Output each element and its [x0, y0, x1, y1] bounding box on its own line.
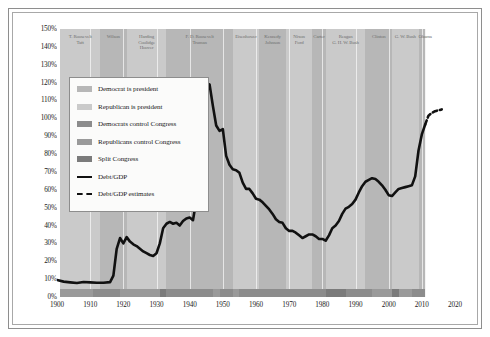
x-axis-tick: 1900	[50, 301, 64, 309]
x-axis-tick: 2010	[415, 301, 429, 309]
y-axis-tick: 30%	[44, 239, 57, 247]
legend-color-swatch	[77, 86, 92, 92]
x-axis-tick: 2020	[448, 301, 462, 309]
y-axis-tick: 70%	[44, 168, 57, 176]
x-axis-tick: 1960	[249, 301, 263, 309]
y-axis-tick: 150%	[41, 25, 57, 33]
legend-dashed-swatch	[77, 193, 92, 195]
legend-label: Debt/GDP estimates	[98, 190, 154, 198]
legend-item: Democrats control Congress	[77, 120, 176, 128]
legend-item: Split Congress	[77, 155, 138, 163]
chart-legend: Democrat is presidentRepublican is presi…	[69, 77, 209, 212]
legend-color-swatch	[77, 139, 92, 145]
x-axis-tick: 1970	[282, 301, 296, 309]
y-axis-tick: 60%	[44, 186, 57, 194]
legend-label: Republicans control Congress	[98, 138, 180, 146]
y-axis-tick: 80%	[44, 150, 57, 158]
legend-color-swatch	[77, 104, 92, 110]
y-axis-tick: 90%	[44, 132, 57, 140]
legend-item: Democrat is president	[77, 85, 158, 93]
legend-item: Debt/GDP estimates	[77, 190, 154, 198]
legend-item: Republicans control Congress	[77, 138, 180, 146]
x-axis-tick: 1980	[315, 301, 329, 309]
y-axis-tick: 50%	[44, 204, 57, 212]
y-axis-tick: 120%	[41, 79, 57, 87]
x-axis-tick: 1930	[150, 301, 164, 309]
legend-label: Debt/GDP	[98, 173, 127, 181]
x-axis-tick: 1990	[349, 301, 363, 309]
x-axis-tick: 2000	[382, 301, 396, 309]
series-dashed	[425, 109, 442, 124]
legend-line-swatch	[77, 176, 92, 178]
y-axis-tick: 40%	[44, 222, 57, 230]
y-axis-tick: 0%	[48, 293, 57, 301]
y-axis-tick-labels: 0%10%20%30%40%50%60%70%80%90%100%110%120…	[13, 9, 57, 330]
legend-label: Democrat is president	[98, 85, 158, 93]
x-axis-tick: 1920	[116, 301, 130, 309]
y-axis-tick: 110%	[41, 96, 57, 104]
chart-outer-frame: 0%10%20%30%40%50%60%70%80%90%100%110%120…	[8, 8, 482, 329]
legend-item: Republican is president	[77, 103, 162, 111]
legend-color-swatch	[77, 156, 92, 162]
x-axis-tick: 1950	[216, 301, 230, 309]
legend-label: Split Congress	[98, 155, 138, 163]
x-axis-tick-labels: 1900191019201930194019501960197019801990…	[9, 301, 483, 315]
x-axis-tick: 1940	[183, 301, 197, 309]
y-axis-tick: 20%	[44, 257, 57, 265]
legend-label: Republican is president	[98, 103, 162, 111]
y-axis-tick: 10%	[44, 275, 57, 283]
y-axis-tick: 100%	[41, 114, 57, 122]
y-axis-tick: 140%	[41, 43, 57, 51]
debt-to-gdp-chart: 0%10%20%30%40%50%60%70%80%90%100%110%120…	[9, 9, 483, 330]
legend-item: Debt/GDP	[77, 173, 127, 181]
legend-label: Democrats control Congress	[98, 120, 176, 128]
x-axis-tick: 1910	[83, 301, 97, 309]
legend-color-swatch	[77, 121, 92, 127]
y-axis-tick: 130%	[41, 61, 57, 69]
